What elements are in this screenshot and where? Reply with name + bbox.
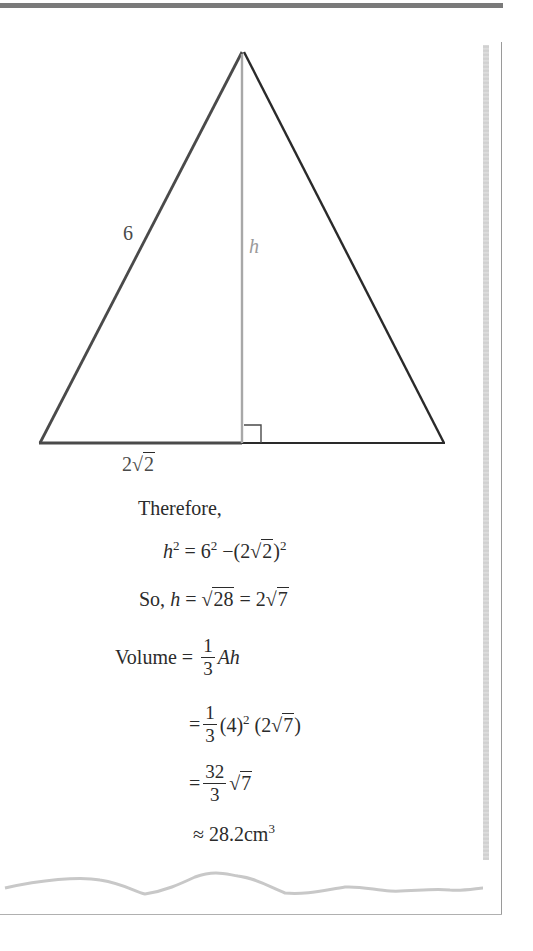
side-length-label: 6	[123, 222, 133, 245]
triangle-side-left	[40, 52, 242, 443]
equation-h-value: So, h = √28 = 2√7	[139, 588, 289, 611]
triangle-diagram	[0, 0, 533, 951]
equation-volume-substitution: =13(4)2 (2√7)	[189, 702, 301, 747]
equation-pythagoras: h2 = 62 −(2√2)2	[163, 538, 286, 563]
equation-volume-formula: Volume = 13Ah	[115, 635, 240, 680]
equation-volume-result: ≈ 28.2cm3	[193, 821, 275, 846]
equation-volume-simplified: =323√7	[189, 761, 252, 806]
right-angle-marker	[244, 425, 261, 443]
torn-paper-bottom-edge	[5, 873, 483, 894]
height-label: h	[249, 235, 259, 258]
triangle-side-right	[244, 52, 444, 443]
base-half-label: 2√2	[122, 453, 155, 476]
solution-intro: Therefore,	[138, 497, 222, 520]
